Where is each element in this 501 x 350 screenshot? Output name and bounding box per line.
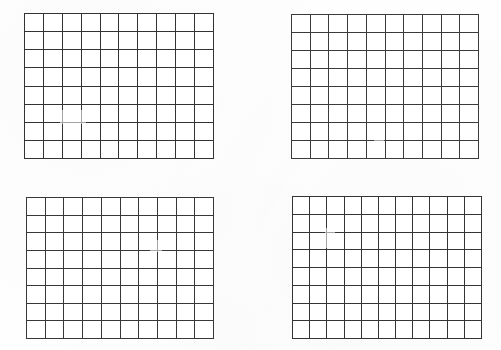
grid-cell[interactable] bbox=[310, 321, 327, 339]
grid-cell[interactable] bbox=[442, 123, 461, 141]
grid-cell[interactable] bbox=[293, 286, 310, 304]
grid-cell[interactable] bbox=[138, 32, 157, 50]
grid-cell[interactable] bbox=[460, 15, 479, 33]
grid-cell[interactable] bbox=[138, 68, 157, 86]
grid-cell[interactable] bbox=[119, 14, 138, 32]
grid-cell[interactable] bbox=[27, 304, 46, 322]
grid-cell[interactable] bbox=[379, 286, 396, 304]
grid-cell[interactable] bbox=[119, 141, 138, 159]
grid-cell[interactable] bbox=[293, 268, 310, 286]
grid-cell[interactable] bbox=[119, 32, 138, 50]
grid-cell[interactable] bbox=[310, 286, 327, 304]
grid-cell[interactable] bbox=[176, 68, 195, 86]
grid-cell[interactable] bbox=[345, 197, 362, 215]
grid-cell[interactable] bbox=[345, 250, 362, 268]
grid-cell[interactable] bbox=[138, 50, 157, 68]
grid-cell[interactable] bbox=[386, 15, 405, 33]
grid-cell[interactable] bbox=[64, 216, 83, 234]
grid-cell[interactable] bbox=[44, 50, 63, 68]
grid-cell[interactable] bbox=[423, 141, 442, 159]
grid-cell[interactable] bbox=[158, 321, 177, 339]
grid-cell[interactable] bbox=[101, 68, 120, 86]
grid-cell[interactable] bbox=[345, 215, 362, 233]
grid-cell[interactable] bbox=[176, 123, 195, 141]
grid-cell[interactable] bbox=[448, 268, 465, 286]
grid-cell[interactable] bbox=[404, 33, 423, 51]
grid-cell[interactable] bbox=[121, 251, 140, 269]
grid-cell[interactable] bbox=[139, 216, 158, 234]
grid-cell[interactable] bbox=[396, 197, 413, 215]
grid-cell[interactable] bbox=[311, 69, 330, 87]
grid-cell[interactable] bbox=[329, 33, 348, 51]
grid-cell[interactable] bbox=[292, 15, 311, 33]
grid-cell[interactable] bbox=[413, 215, 430, 233]
grid-cell[interactable] bbox=[195, 50, 214, 68]
grid-cell[interactable] bbox=[362, 215, 379, 233]
grid-cell[interactable] bbox=[102, 251, 121, 269]
grid-cell[interactable] bbox=[102, 304, 121, 322]
grid-cell[interactable] bbox=[293, 250, 310, 268]
grid-cell[interactable] bbox=[327, 304, 344, 322]
grid-cell[interactable] bbox=[158, 251, 177, 269]
grid-cell[interactable] bbox=[121, 321, 140, 339]
grid-cell[interactable] bbox=[430, 233, 447, 251]
grid-cell[interactable] bbox=[64, 251, 83, 269]
grid-cell[interactable] bbox=[396, 268, 413, 286]
grid-cell[interactable] bbox=[362, 286, 379, 304]
grid-cell[interactable] bbox=[176, 14, 195, 32]
grid-cell[interactable] bbox=[44, 14, 63, 32]
grid-cell[interactable] bbox=[430, 321, 447, 339]
grid-cell[interactable] bbox=[101, 50, 120, 68]
grid-bottom-left[interactable] bbox=[26, 197, 214, 339]
grid-cell[interactable] bbox=[404, 15, 423, 33]
grid-cell[interactable] bbox=[139, 233, 158, 251]
grid-cell[interactable] bbox=[348, 141, 367, 159]
grid-cell[interactable] bbox=[25, 14, 44, 32]
grid-cell[interactable] bbox=[379, 215, 396, 233]
grid-cell[interactable] bbox=[367, 141, 386, 159]
grid-cell[interactable] bbox=[367, 87, 386, 105]
grid-cell[interactable] bbox=[345, 286, 362, 304]
grid-cell[interactable] bbox=[177, 321, 196, 339]
grid-cell[interactable] bbox=[293, 197, 310, 215]
grid-cell[interactable] bbox=[460, 51, 479, 69]
grid-cell[interactable] bbox=[311, 51, 330, 69]
grid-cell[interactable] bbox=[158, 286, 177, 304]
grid-cell[interactable] bbox=[348, 51, 367, 69]
grid-cell[interactable] bbox=[348, 105, 367, 123]
grid-cell[interactable] bbox=[362, 268, 379, 286]
grid-cell[interactable] bbox=[46, 233, 65, 251]
grid-cell[interactable] bbox=[293, 321, 310, 339]
grid-cell[interactable] bbox=[404, 123, 423, 141]
grid-cell[interactable] bbox=[292, 105, 311, 123]
grid-cell[interactable] bbox=[44, 123, 63, 141]
grid-cell[interactable] bbox=[83, 321, 102, 339]
grid-cell[interactable] bbox=[404, 51, 423, 69]
grid-cell[interactable] bbox=[310, 197, 327, 215]
grid-cell[interactable] bbox=[460, 141, 479, 159]
grid-cell[interactable] bbox=[396, 304, 413, 322]
grid-cell[interactable] bbox=[102, 269, 121, 287]
grid-cell[interactable] bbox=[83, 233, 102, 251]
grid-cell[interactable] bbox=[195, 105, 214, 123]
grid-cell[interactable] bbox=[327, 197, 344, 215]
grid-cell[interactable] bbox=[101, 32, 120, 50]
grid-cell[interactable] bbox=[44, 105, 63, 123]
grid-cell[interactable] bbox=[25, 141, 44, 159]
grid-cell[interactable] bbox=[102, 216, 121, 234]
grid-cell[interactable] bbox=[448, 250, 465, 268]
grid-cell[interactable] bbox=[157, 141, 176, 159]
grid-cell[interactable] bbox=[195, 141, 214, 159]
grid-cell[interactable] bbox=[195, 251, 214, 269]
grid-cell[interactable] bbox=[82, 87, 101, 105]
grid-cell[interactable] bbox=[64, 304, 83, 322]
grid-cell[interactable] bbox=[195, 321, 214, 339]
grid-cell[interactable] bbox=[158, 216, 177, 234]
grid-cell[interactable] bbox=[82, 68, 101, 86]
grid-cell[interactable] bbox=[460, 123, 479, 141]
grid-cell[interactable] bbox=[310, 304, 327, 322]
grid-cell[interactable] bbox=[348, 33, 367, 51]
grid-cell[interactable] bbox=[158, 198, 177, 216]
grid-cell[interactable] bbox=[176, 32, 195, 50]
grid-cell[interactable] bbox=[63, 50, 82, 68]
